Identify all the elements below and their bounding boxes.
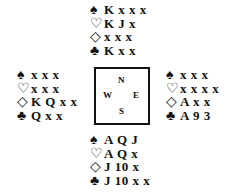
south-hand: ♠A Q J ♡A Q x ◇J 10 x ♣J 10 x x <box>90 133 150 187</box>
west-spades: ♠x x x <box>17 68 77 82</box>
diamond-icon: ◇ <box>90 160 104 174</box>
compass-west: W <box>103 90 112 100</box>
club-icon: ♣ <box>90 174 104 188</box>
south-clubs: ♣J 10 x x <box>90 174 150 188</box>
spade-icon: ♠ <box>90 133 104 147</box>
diamond-icon: ◇ <box>166 95 180 109</box>
west-diamonds: ◇K Q x x <box>17 95 77 109</box>
heart-icon: ♡ <box>90 147 104 161</box>
heart-icon: ♡ <box>166 82 180 96</box>
east-clubs: ♣A 9 3 <box>166 109 219 123</box>
east-hearts: ♡x x x x <box>166 82 219 96</box>
spade-icon: ♠ <box>17 68 31 82</box>
east-hand: ♠x x x ♡x x x x ◇A x x ♣A 9 3 <box>166 68 219 122</box>
south-diamonds: ◇J 10 x <box>90 160 150 174</box>
east-spades: ♠x x x <box>166 68 219 82</box>
compass-east: E <box>133 90 139 100</box>
heart-icon: ♡ <box>17 82 31 96</box>
west-clubs: ♣Q x x <box>17 109 77 123</box>
north-spades: ♠K x x x <box>90 3 147 17</box>
west-hearts: ♡x x x <box>17 82 77 96</box>
club-icon: ♣ <box>17 109 31 123</box>
north-diamonds: ◇x x x <box>90 30 147 44</box>
spade-icon: ♠ <box>166 68 180 82</box>
south-hearts: ♡A Q x <box>90 147 150 161</box>
south-spades: ♠A Q J <box>90 133 150 147</box>
club-icon: ♣ <box>166 109 180 123</box>
west-hand: ♠x x x ♡x x x ◇K Q x x ♣Q x x <box>17 68 77 122</box>
heart-icon: ♡ <box>90 17 104 31</box>
compass-south: S <box>119 106 124 116</box>
north-hearts: ♡K J x <box>90 17 147 31</box>
east-diamonds: ◇A x x <box>166 95 219 109</box>
compass-north: N <box>118 75 125 85</box>
north-clubs: ♣K x x <box>90 44 147 58</box>
club-icon: ♣ <box>90 44 104 58</box>
north-hand: ♠K x x x ♡K J x ◇x x x ♣K x x <box>90 3 147 57</box>
spade-icon: ♠ <box>90 3 104 17</box>
compass-box: N W E S <box>94 67 150 125</box>
diamond-icon: ◇ <box>90 30 104 44</box>
diamond-icon: ◇ <box>17 95 31 109</box>
